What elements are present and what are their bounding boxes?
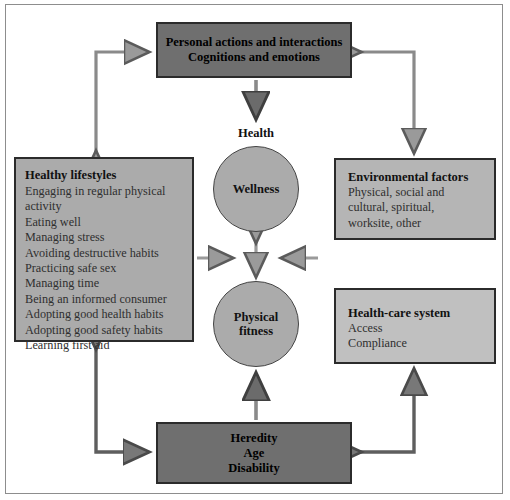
list-item: Practicing safe sex [25, 261, 186, 276]
disability-line: Disability [228, 461, 279, 476]
personal-actions-line1: Personal actions and interactions [166, 35, 343, 50]
arrow-lifestyles-to-heredity [96, 348, 148, 452]
node-environmental-factors[interactable]: Environmental factors Physical, social a… [334, 158, 496, 240]
list-item: Learning first aid [25, 338, 186, 353]
heredity-line: Heredity [231, 431, 278, 446]
list-item: Avoiding destructive habits [25, 246, 186, 261]
list-item: Engaging in regular physical activity [25, 184, 186, 215]
health-care-system-title: Health-care system [348, 306, 486, 321]
list-item: Adopting good health habits [25, 307, 186, 322]
list-item: Managing time [25, 276, 186, 291]
wellness-label: Wellness [233, 182, 280, 196]
node-heredity-age-disability[interactable]: Heredity Age Disability [156, 422, 352, 484]
physical-fitness-line1: Physical [234, 310, 278, 324]
node-wellness-circle[interactable]: Wellness [213, 146, 299, 232]
healthy-lifestyles-title: Healthy lifestyles [25, 168, 186, 183]
list-item: Managing stress [25, 230, 186, 245]
personal-actions-line2: Cognitions and emotions [188, 50, 320, 65]
list-item: Being an informed consumer [25, 292, 186, 307]
physical-fitness-line2: fitness [239, 324, 273, 338]
list-item: Adopting good safety habits [25, 323, 186, 338]
health-care-system-item-compliance: Compliance [348, 336, 486, 351]
arrow-personal-actions-to-environment [360, 52, 414, 152]
node-healthy-lifestyles[interactable]: Healthy lifestyles Engaging in regular p… [14, 157, 194, 342]
arrow-heredity-to-healthcare [360, 370, 414, 452]
health-label: Health [213, 126, 299, 141]
list-item: Eating well [25, 215, 186, 230]
arrow-lifestyles-to-personal-actions [96, 52, 148, 152]
node-personal-actions[interactable]: Personal actions and interactions Cognit… [156, 22, 352, 78]
environmental-factors-title: Environmental factors [348, 170, 486, 185]
environmental-factors-body: Physical, social and cultural, spiritual… [348, 185, 486, 231]
age-line: Age [244, 446, 265, 461]
diagram-canvas: Personal actions and interactions Cognit… [0, 0, 510, 500]
physical-fitness-label: Physicalfitness [234, 310, 278, 338]
node-health-care-system[interactable]: Health-care system Access Compliance [334, 288, 496, 364]
healthy-lifestyles-list: Engaging in regular physical activity Ea… [25, 184, 186, 353]
health-care-system-item-access: Access [348, 321, 486, 336]
node-physical-fitness-circle[interactable]: Physicalfitness [213, 281, 299, 367]
